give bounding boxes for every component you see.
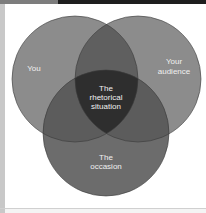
- label-center-line3: situation: [91, 102, 121, 111]
- label-you: You: [27, 64, 41, 73]
- venn-diagram: You Your audience The rhetorical situati…: [0, 0, 206, 213]
- label-occasion-line2: occasion: [90, 162, 122, 171]
- label-center-line2: rhetorical: [90, 93, 123, 102]
- label-audience-line2: audience: [158, 67, 191, 76]
- label-center-line1: The: [99, 84, 113, 93]
- label-audience-line1: Your: [166, 57, 183, 66]
- label-occasion-line1: The: [99, 153, 113, 162]
